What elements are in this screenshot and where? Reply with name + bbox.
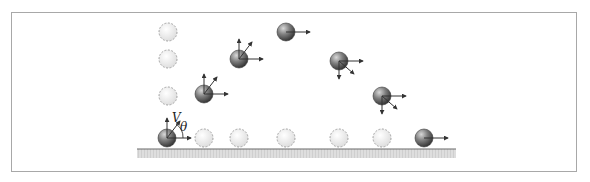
ghost-ball — [159, 50, 177, 68]
ghost-ball — [277, 129, 295, 147]
theta-label: θ — [180, 120, 188, 134]
ground — [137, 149, 456, 158]
projectile-diagram: θ V — [0, 0, 590, 182]
ghost-ball — [159, 87, 177, 105]
projectile-ball — [195, 74, 228, 103]
solid-balls — [158, 23, 448, 147]
velocity-label: V — [172, 111, 182, 125]
ghost-ball — [195, 129, 213, 147]
projectile-ball — [330, 52, 363, 79]
projectile-ball — [373, 87, 406, 114]
ghost-ball — [230, 129, 248, 147]
projectile-ball — [230, 39, 263, 68]
projectile-ball — [415, 129, 448, 147]
ghost-ball — [159, 23, 177, 41]
ghost-ball — [330, 129, 348, 147]
ghost-balls — [159, 23, 391, 147]
projectile-ball — [277, 23, 310, 41]
ghost-ball — [373, 129, 391, 147]
